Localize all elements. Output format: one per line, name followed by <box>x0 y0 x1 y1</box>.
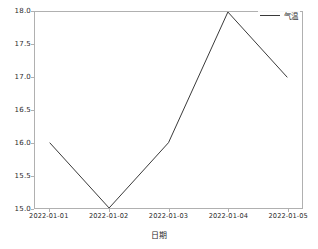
x-tick-label: 2022-01-04 <box>209 212 248 220</box>
y-tick-label: 16.5 <box>15 106 31 114</box>
series-line-svg <box>35 12 302 208</box>
legend-entry-label: 气温 <box>284 10 298 21</box>
y-tick-label: 17.0 <box>15 73 31 81</box>
x-tick-mark <box>109 209 110 212</box>
y-tick-label: 17.5 <box>15 40 31 48</box>
x-tick-mark <box>288 209 289 212</box>
x-tick-label: 2022-01-05 <box>269 212 308 220</box>
x-tick-label: 2022-01-03 <box>149 212 188 220</box>
x-tick-mark <box>228 209 229 212</box>
y-tick-label: 16.0 <box>15 139 31 147</box>
x-axis-label: 日期 <box>0 229 318 240</box>
legend: 气温 <box>258 9 300 22</box>
line-chart-figure: 15.015.516.016.517.017.518.0 2022-01-012… <box>0 0 318 249</box>
x-tick-label: 2022-01-01 <box>29 212 68 220</box>
y-tick-label: 18.0 <box>15 7 31 15</box>
y-tick-mark <box>31 209 34 210</box>
x-tick-mark <box>169 209 170 212</box>
series-气温-polyline <box>50 12 288 208</box>
x-tick-mark <box>49 209 50 212</box>
plot-area <box>34 11 303 209</box>
y-tick-label: 15.5 <box>15 172 31 180</box>
x-tick-label: 2022-01-02 <box>89 212 128 220</box>
legend-line-sample <box>260 15 280 16</box>
